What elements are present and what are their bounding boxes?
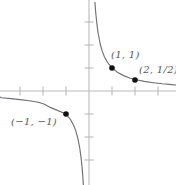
data-point-1-1 xyxy=(109,65,115,71)
axes-group xyxy=(0,0,176,185)
point-label-1-1: (1, 1) xyxy=(111,50,140,60)
reciprocal-function-figure: (1, 1) (2, 1/2) (−1, −1) xyxy=(0,0,176,185)
curve-branch-negative xyxy=(0,97,83,185)
point-label-neg1-neg1: (−1, −1) xyxy=(11,117,57,127)
data-point-2-half xyxy=(132,77,138,83)
data-point-neg1-neg1 xyxy=(63,111,69,117)
point-label-2-half: (2, 1/2) xyxy=(139,65,176,75)
plot-canvas xyxy=(0,0,176,185)
